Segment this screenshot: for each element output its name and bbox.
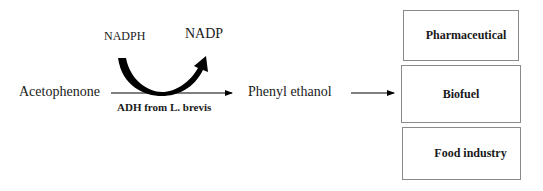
- product-label: Phenyl ethanol: [248, 84, 332, 100]
- enzyme-label: ADH from L. brevis: [117, 101, 211, 113]
- application-label: Biofuel: [443, 87, 480, 102]
- application-box-biofuel: Biofuel: [401, 65, 521, 123]
- application-box-pharmaceutical: Pharmaceutical: [403, 10, 519, 61]
- application-box-food-industry: Food industry: [402, 127, 521, 180]
- cofactor-curved-arrow: [118, 56, 208, 96]
- cofactor-in-label: NADPH: [104, 29, 145, 44]
- application-label: Pharmaceutical: [426, 28, 507, 43]
- substrate-label: Acetophenone: [19, 84, 100, 100]
- cofactor-out-label: NADP: [185, 26, 223, 42]
- application-label: Food industry: [434, 146, 506, 161]
